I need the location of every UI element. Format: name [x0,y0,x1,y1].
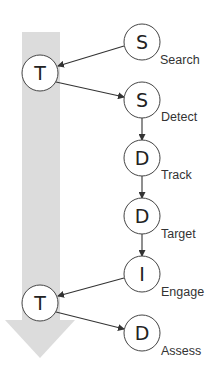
edge-search-to-t1 [58,46,124,66]
node-detect: S Detect [124,82,198,124]
node-engage-letter: I [139,263,145,285]
node-t1-letter: T [33,62,46,84]
node-assess: D Assess [124,315,201,358]
node-target: D Target [124,198,196,241]
node-detect-letter: S [136,89,148,111]
kill-chain-diagram: S Search T S Detect D Track D Target I E… [0,0,215,377]
edge-engage-to-t2 [58,278,124,296]
node-engage: I Engage [124,256,204,299]
edge-t1-to-detect [56,82,124,97]
node-t1: T [22,55,58,91]
node-search-letter: S [136,31,148,53]
node-search: S Search [124,24,200,67]
node-t2-letter: T [33,292,46,314]
node-t2: T [22,285,58,321]
node-track: D Track [124,140,193,182]
node-assess-letter: D [135,322,150,344]
node-search-label: Search [160,53,200,67]
node-track-label: Track [161,168,193,182]
node-detect-label: Detect [161,110,198,124]
node-engage-label: Engage [161,285,204,299]
node-target-label: Target [161,227,196,241]
node-track-letter: D [135,147,150,169]
node-target-letter: D [135,205,150,227]
node-assess-label: Assess [161,344,201,358]
